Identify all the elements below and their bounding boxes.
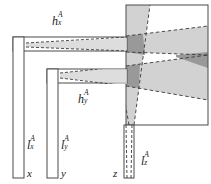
z-bar-outline <box>124 125 134 178</box>
axis-label-y: y <box>61 168 66 179</box>
label-l-z: lAz <box>141 152 151 168</box>
axis-label-z: z <box>113 168 117 179</box>
label-l-x: lAx <box>27 136 37 152</box>
figure-container: hAx hAy lAx lAy lAz x y z <box>0 0 211 184</box>
projection-band-group <box>108 5 208 125</box>
label-h-y: hAy <box>78 90 91 106</box>
x-bar-outline <box>13 37 24 178</box>
overlap-y-z <box>126 64 140 88</box>
diagram-canvas <box>0 0 211 184</box>
axis-label-x: x <box>27 168 32 179</box>
label-l-y: lAy <box>61 136 71 152</box>
y-bar-outline <box>47 69 58 178</box>
label-h-x: hAx <box>52 12 65 28</box>
